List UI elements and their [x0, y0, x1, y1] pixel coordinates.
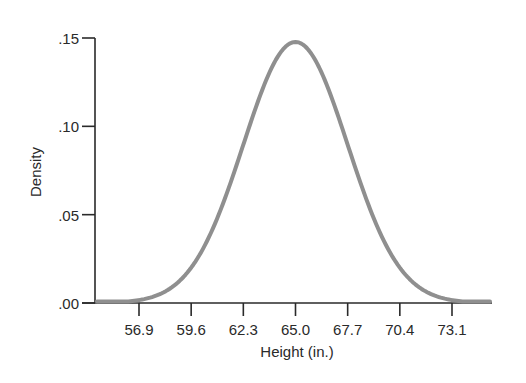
y-tick-label: .15 — [58, 30, 79, 47]
density-curve — [97, 42, 490, 302]
y-axis-ticks: .00.05.10.15 — [58, 30, 95, 312]
y-tick-label: .00 — [58, 295, 79, 312]
x-tick-label: 59.6 — [177, 321, 206, 338]
y-axis-label: Density — [27, 146, 44, 197]
normal-density-chart: .00.05.10.15 56.959.662.365.067.770.473.… — [0, 0, 526, 383]
x-axis-ticks: 56.959.662.365.067.770.473.1 — [124, 303, 466, 338]
y-tick-label: .10 — [58, 118, 79, 135]
x-axis-label: Height (in.) — [260, 343, 333, 360]
x-tick-label: 73.1 — [437, 321, 466, 338]
x-tick-label: 62.3 — [229, 321, 258, 338]
x-tick-label: 67.7 — [333, 321, 362, 338]
x-tick-label: 56.9 — [124, 321, 153, 338]
y-tick-label: .05 — [58, 207, 79, 224]
x-tick-label: 65.0 — [281, 321, 310, 338]
x-tick-label: 70.4 — [385, 321, 414, 338]
